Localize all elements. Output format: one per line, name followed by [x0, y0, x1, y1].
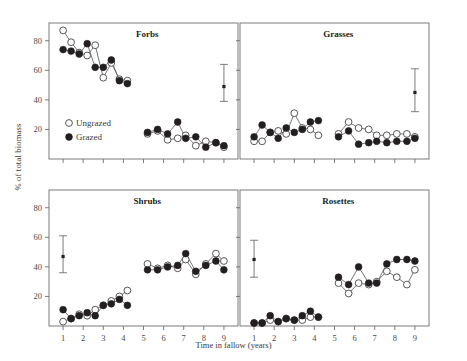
data-point-ungrazed [174, 135, 181, 142]
data-point-ungrazed [291, 110, 298, 117]
data-point-grazed [283, 315, 290, 322]
y-tick-label: 60 [34, 65, 43, 75]
data-point-ungrazed [393, 131, 400, 138]
data-point-grazed [275, 135, 282, 142]
data-point-ungrazed [100, 74, 107, 81]
data-point-grazed [192, 133, 199, 140]
data-point-grazed [92, 312, 99, 319]
data-point-grazed [108, 57, 115, 64]
data-point-grazed [60, 306, 67, 313]
data-point-grazed [76, 312, 83, 319]
data-point-ungrazed [213, 250, 220, 257]
y-tick-label: 20 [34, 124, 43, 134]
data-point-grazed [84, 40, 91, 47]
data-point-ungrazed [383, 268, 390, 275]
data-point-grazed [68, 315, 75, 322]
legend-marker-grazed [66, 134, 73, 141]
data-point-grazed [144, 266, 151, 273]
data-point-ungrazed [404, 131, 411, 138]
y-tick-label: 20 [34, 291, 43, 301]
data-point-ungrazed [345, 290, 352, 297]
data-point-grazed [76, 51, 83, 58]
data-point-grazed [291, 129, 298, 136]
y-tick-label: 40 [34, 262, 43, 272]
data-point-grazed [154, 266, 161, 273]
data-point-grazed [108, 300, 115, 307]
data-point-ungrazed [192, 142, 199, 149]
data-point-grazed [412, 135, 419, 142]
data-point-grazed [315, 314, 322, 321]
y-tick-label: 80 [34, 203, 43, 213]
data-point-ungrazed [92, 42, 99, 49]
data-point-grazed [68, 48, 75, 55]
data-point-grazed [174, 262, 181, 269]
legend-marker-ungrazed [66, 120, 73, 127]
data-point-grazed [182, 250, 189, 257]
data-point-ungrazed [355, 125, 362, 132]
data-point-grazed [412, 258, 419, 265]
data-point-grazed [373, 138, 380, 145]
data-point-grazed [345, 127, 352, 134]
data-point-ungrazed [60, 318, 67, 325]
data-point-ungrazed [315, 132, 322, 139]
y-tick-label: 80 [34, 36, 43, 46]
data-point-grazed [393, 138, 400, 145]
data-point-grazed [213, 139, 220, 146]
error-bar [250, 240, 258, 277]
data-point-grazed [307, 308, 314, 315]
data-point-ungrazed [68, 39, 75, 46]
data-point-grazed [144, 129, 151, 136]
data-point-grazed [373, 280, 380, 287]
data-point-grazed [335, 274, 342, 281]
data-point-grazed [259, 320, 266, 327]
data-point-grazed [116, 296, 123, 303]
data-point-grazed [335, 133, 342, 140]
data-point-grazed [124, 80, 131, 87]
data-point-ungrazed [355, 280, 362, 287]
data-point-grazed [299, 126, 306, 133]
data-point-grazed [315, 117, 322, 124]
data-point-ungrazed [259, 138, 266, 145]
data-point-grazed [383, 261, 390, 268]
data-point-grazed [164, 131, 171, 138]
data-point-grazed [365, 139, 372, 146]
data-point-grazed [393, 256, 400, 263]
x-axis-label: Time in fallow (years) [0, 340, 467, 350]
data-point-grazed [283, 125, 290, 132]
data-point-grazed [116, 77, 123, 84]
panel-title: Grasses [323, 29, 353, 39]
data-point-ungrazed [307, 126, 314, 133]
data-point-grazed [275, 318, 282, 325]
data-point-ungrazed [412, 266, 419, 273]
data-point-grazed [84, 309, 91, 316]
data-point-grazed [202, 262, 209, 269]
data-point-ungrazed [221, 258, 228, 265]
data-point-ungrazed [345, 119, 352, 126]
data-point-grazed [202, 144, 209, 151]
data-point-ungrazed [275, 127, 282, 134]
data-point-grazed [213, 258, 220, 265]
legend: UngrazedGrazed [66, 118, 112, 142]
data-point-grazed [154, 126, 161, 133]
data-point-grazed [355, 141, 362, 148]
data-point-grazed [299, 312, 306, 319]
data-point-grazed [221, 266, 228, 273]
panel-title: Rosettes [322, 196, 354, 206]
data-point-ungrazed [84, 52, 91, 59]
data-point-grazed [307, 119, 314, 126]
data-point-grazed [267, 129, 274, 136]
data-point-grazed [251, 133, 258, 140]
panel-title: Shrubs [134, 196, 162, 206]
data-point-grazed [251, 320, 258, 327]
data-point-grazed [383, 139, 390, 146]
data-point-grazed [192, 268, 199, 275]
error-bar [59, 236, 67, 273]
data-point-grazed [174, 119, 181, 126]
error-bar [220, 64, 228, 101]
multi-panel-scatter-chart: 20406080ForbsGrasses20406080123456789Shr… [0, 0, 467, 361]
data-point-ungrazed [365, 126, 372, 133]
data-point-grazed [92, 64, 99, 71]
y-tick-label: 40 [34, 95, 43, 105]
data-point-ungrazed [383, 132, 390, 139]
data-point-grazed [291, 317, 298, 324]
